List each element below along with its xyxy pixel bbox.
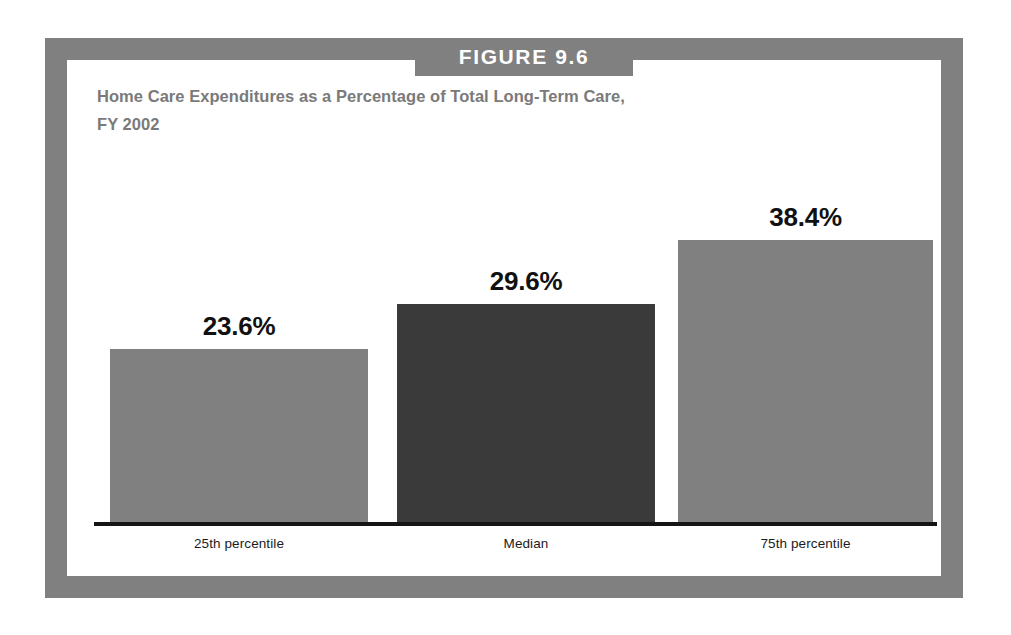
bar-rect: [110, 349, 368, 522]
bar-category-label: Median: [375, 536, 677, 551]
axis-baseline: [94, 522, 937, 526]
bar-group: 23.6%25th percentile: [110, 60, 368, 526]
bar-group: 29.6%Median: [397, 60, 655, 526]
bar-category-label: 75th percentile: [656, 536, 955, 551]
bar-value-label: 23.6%: [110, 311, 368, 342]
bar-value-label: 29.6%: [397, 266, 655, 297]
bar-rect: [678, 240, 933, 522]
bar-value-label: 38.4%: [678, 202, 933, 233]
bar-category-label: 25th percentile: [88, 536, 390, 551]
figure-panel: FIGURE 9.6 Home Care Expenditures as a P…: [67, 60, 941, 576]
bar-rect: [397, 304, 655, 522]
plot-area: 23.6%25th percentile29.6%Median38.4%75th…: [67, 60, 941, 576]
figure-frame: FIGURE 9.6 Home Care Expenditures as a P…: [45, 38, 963, 598]
bar-group: 38.4%75th percentile: [678, 60, 933, 526]
